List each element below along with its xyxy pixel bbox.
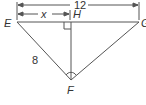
triangle-EFG	[17, 22, 139, 80]
point-F: F	[67, 84, 75, 96]
point-G: G	[141, 17, 146, 29]
point-H: H	[73, 8, 81, 20]
point-E: E	[4, 17, 12, 29]
label-8: 8	[32, 54, 38, 66]
label-x: x	[40, 8, 47, 20]
geometry-diagram: 12 x E G H F 8	[0, 0, 146, 105]
